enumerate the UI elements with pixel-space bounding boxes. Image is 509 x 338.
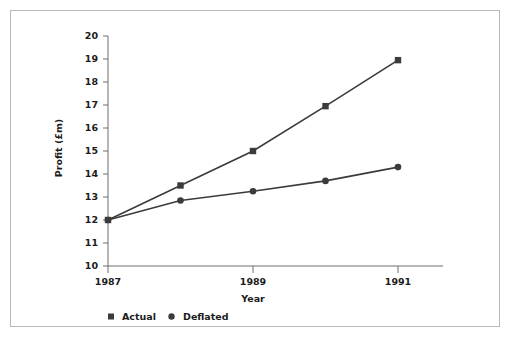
legend-item-actual[interactable]: Actual (108, 311, 156, 322)
y-tick-label-20: 20 (85, 30, 99, 41)
y-axis-ticks (103, 36, 108, 266)
series-actual-line (108, 60, 398, 220)
chart-legend: Actual Deflated (108, 311, 229, 322)
y-axis-title: Profit (£m) (53, 119, 64, 177)
data-point-deflated-1990 (322, 178, 329, 185)
y-tick-label-14: 14 (85, 168, 99, 179)
data-point-deflated-1989 (250, 188, 257, 195)
y-tick-label-10: 10 (85, 260, 99, 271)
data-point-actual-1988 (177, 182, 183, 188)
series-deflated (105, 164, 402, 224)
x-tick-label-1989: 1989 (240, 276, 266, 287)
y-tick-label-16: 16 (85, 122, 99, 133)
y-tick-label-19: 19 (85, 53, 98, 64)
series-actual (105, 57, 401, 223)
x-axis-title: Year (240, 293, 265, 304)
x-tick-label-1987: 1987 (95, 276, 121, 287)
y-axis-tick-labels: 20 19 18 17 16 15 14 13 12 11 10 (85, 30, 99, 271)
data-point-deflated-1991 (395, 164, 402, 171)
legend-item-deflated[interactable]: Deflated (168, 311, 228, 322)
y-tick-label-13: 13 (85, 191, 98, 202)
y-tick-label-15: 15 (85, 145, 98, 156)
x-tick-label-1991: 1991 (385, 276, 411, 287)
legend-label-actual: Actual (122, 311, 156, 322)
y-axis-group: 20 19 18 17 16 15 14 13 12 11 10 Profit … (53, 30, 108, 271)
data-point-deflated-1988 (177, 197, 184, 204)
legend-label-deflated: Deflated (183, 311, 229, 322)
x-axis-ticks (108, 266, 398, 273)
legend-marker-square-icon (108, 314, 114, 320)
x-axis-tick-labels: 1987 1989 1991 (95, 276, 411, 287)
y-tick-label-12: 12 (85, 214, 98, 225)
y-tick-label-17: 17 (85, 99, 98, 110)
y-tick-label-18: 18 (85, 76, 99, 87)
data-point-actual-1989 (250, 148, 256, 154)
chart-canvas: 20 19 18 17 16 15 14 13 12 11 10 Profit … (0, 0, 509, 338)
data-point-actual-1990 (322, 103, 328, 109)
legend-marker-circle-icon (168, 313, 174, 319)
data-point-deflated-1987 (105, 217, 112, 224)
y-tick-label-11: 11 (85, 237, 98, 248)
x-axis-group: 1987 1989 1991 Year (95, 266, 443, 304)
data-point-actual-1991 (395, 57, 401, 63)
line-chart: 20 19 18 17 16 15 14 13 12 11 10 Profit … (0, 0, 509, 338)
